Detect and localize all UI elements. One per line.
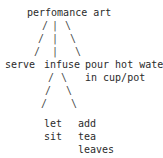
tree-edge-infuse-add-3: \ bbox=[71, 97, 77, 110]
ascii-tree-diagram: ///|||\\\///\\\perfomance artserveinfuse… bbox=[0, 0, 163, 158]
tree-edge-root-infuse-3: | bbox=[52, 45, 58, 58]
tree-edge-root-infuse-2: | bbox=[52, 32, 58, 45]
tree-edge-root-serve-2: / bbox=[38, 32, 44, 45]
tree-edge-root-pour-3: \ bbox=[75, 45, 81, 58]
tree-edge-root-serve-3: / bbox=[34, 45, 40, 58]
tree-node-root: perfomance art bbox=[27, 6, 111, 19]
tree-edge-root-serve-1: / bbox=[42, 19, 48, 32]
tree-node-leaves: leaves bbox=[78, 143, 114, 156]
tree-edge-infuse-let-2: / bbox=[45, 84, 51, 97]
tree-node-infuse: infuse bbox=[44, 58, 80, 71]
tree-edge-infuse-add-2: \ bbox=[66, 84, 72, 97]
tree-edge-root-pour-1: \ bbox=[65, 19, 71, 32]
tree-node-pour2: in cup/pot bbox=[85, 71, 145, 84]
tree-edge-infuse-let-3: / bbox=[41, 97, 47, 110]
tree-node-sit: sit bbox=[44, 130, 62, 143]
tree-node-pour: pour hot water bbox=[85, 58, 163, 71]
tree-edge-root-infuse-1: | bbox=[52, 19, 58, 32]
tree-edge-root-pour-2: \ bbox=[70, 32, 76, 45]
tree-node-add: add bbox=[78, 117, 96, 130]
tree-edge-infuse-add-1: \ bbox=[61, 71, 67, 84]
tree-node-serve: serve bbox=[5, 58, 35, 71]
tree-edge-infuse-let-1: / bbox=[48, 71, 54, 84]
tree-node-tea: tea bbox=[78, 130, 96, 143]
tree-node-let: let bbox=[44, 117, 62, 130]
